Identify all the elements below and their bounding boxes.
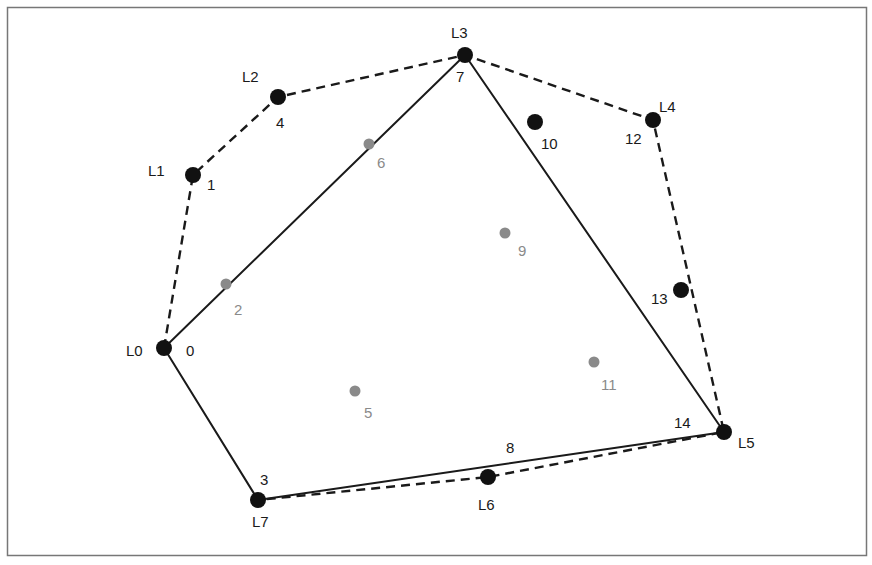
points bbox=[156, 47, 732, 508]
point-L6 bbox=[480, 469, 496, 485]
dashed-hull-path bbox=[164, 55, 724, 500]
point-9 bbox=[500, 228, 511, 239]
hull-vertex-label: L1 bbox=[148, 162, 165, 179]
point-11 bbox=[589, 357, 600, 368]
hull-vertex-label: L2 bbox=[242, 68, 259, 85]
point-index-label: 2 bbox=[234, 301, 242, 318]
hull-lines bbox=[164, 55, 724, 500]
point-index-label: 12 bbox=[625, 130, 642, 147]
solid-hull-path bbox=[164, 55, 724, 500]
point-index-label: 7 bbox=[456, 68, 464, 85]
convex-hull-diagram: 0L01L123L74L2567L389101112L41314L5L6 bbox=[0, 0, 872, 565]
point-index-label: 1 bbox=[207, 176, 215, 193]
hull-vertex-label: L4 bbox=[659, 98, 676, 115]
point-4 bbox=[270, 89, 286, 105]
point-7 bbox=[457, 47, 473, 63]
point-index-label: 5 bbox=[364, 404, 372, 421]
hull-vertex-label: L3 bbox=[451, 24, 468, 41]
point-index-label: 0 bbox=[186, 342, 194, 359]
point-index-label: 4 bbox=[276, 114, 284, 131]
point-14 bbox=[716, 424, 732, 440]
hull-vertex-label: L5 bbox=[738, 434, 755, 451]
point-5 bbox=[350, 386, 361, 397]
point-index-label: 11 bbox=[601, 376, 617, 393]
hull-vertex-label: L0 bbox=[126, 342, 143, 359]
point-3 bbox=[250, 492, 266, 508]
point-index-label: 10 bbox=[541, 135, 558, 152]
point-index-label: 6 bbox=[377, 154, 385, 171]
point-index-label: 9 bbox=[518, 242, 526, 259]
point-1 bbox=[185, 167, 201, 183]
hull-vertex-label: L7 bbox=[252, 513, 269, 530]
point-10 bbox=[527, 114, 543, 130]
point-index-label: 8 bbox=[506, 439, 514, 456]
labels: 0L01L123L74L2567L389101112L41314L5L6 bbox=[126, 24, 755, 530]
hull-vertex-label: L6 bbox=[478, 496, 495, 513]
point-index-label: 14 bbox=[674, 414, 691, 431]
point-0 bbox=[156, 340, 172, 356]
point-6 bbox=[364, 139, 375, 150]
point-index-label: 13 bbox=[651, 290, 668, 307]
point-13 bbox=[673, 282, 689, 298]
point-index-label: 3 bbox=[260, 471, 268, 488]
point-2 bbox=[221, 279, 232, 290]
